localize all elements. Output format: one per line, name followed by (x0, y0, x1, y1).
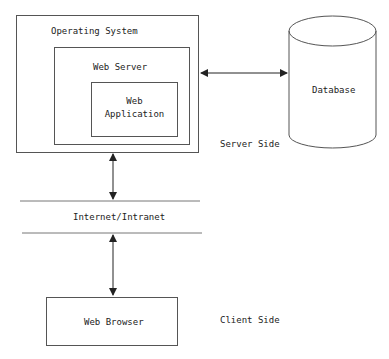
web-browser-label: Web Browser (84, 317, 144, 327)
web-application-label-line2: Application (91, 109, 178, 119)
database-label: Database (312, 85, 355, 95)
web-application-label-line1: Web (91, 96, 178, 106)
client-side-label: Client Side (220, 315, 280, 325)
network-label: Internet/Intranet (73, 212, 165, 222)
web-server-label: Web Server (93, 62, 147, 72)
server-side-label: Server Side (220, 139, 280, 149)
operating-system-label: Operating System (51, 26, 138, 36)
database-cylinder (289, 16, 376, 148)
